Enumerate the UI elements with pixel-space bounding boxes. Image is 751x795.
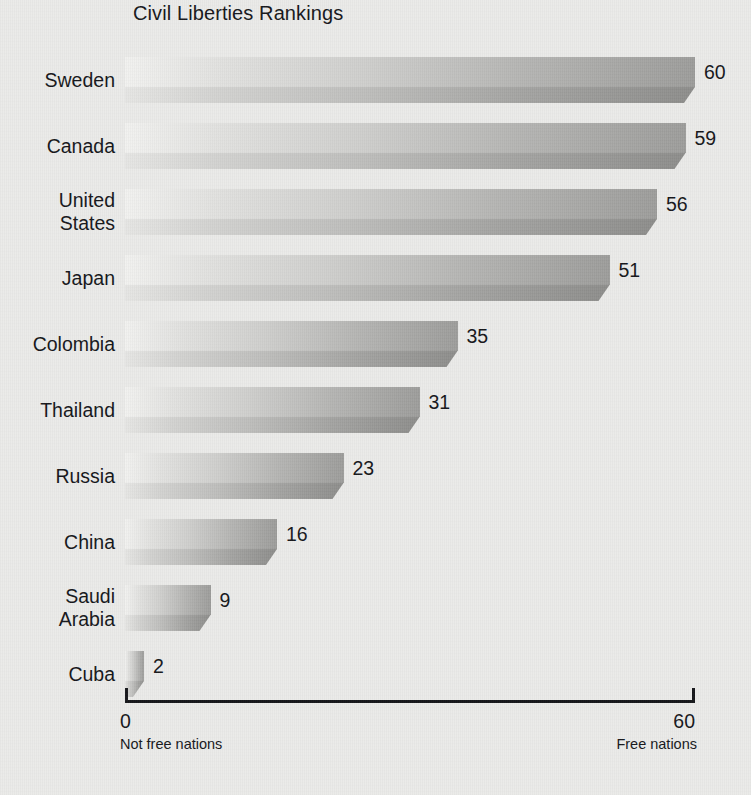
bar-value-china: 16 [286, 525, 308, 545]
civil-liberties-bar-chart: Civil Liberties Rankings Sweden60Canada5… [0, 0, 751, 795]
bar-row: Canada59 [0, 123, 751, 169]
bar-value-cuba: 2 [153, 657, 164, 677]
bar-bottom-face [125, 351, 458, 367]
category-label-colombia: Colombia [0, 333, 115, 356]
axis-line [125, 700, 695, 703]
axis-caption-not-free: Not free nations [120, 736, 222, 752]
bar-value-colombia: 35 [467, 327, 489, 347]
bar-bottom-face [125, 549, 277, 565]
bar-top-face [125, 585, 211, 615]
bar-row: Japan51 [0, 255, 751, 301]
bar-value-canada: 59 [695, 129, 717, 149]
bar-japan [125, 255, 610, 301]
axis-cap-left [125, 688, 128, 703]
bar-row: United States56 [0, 189, 751, 235]
bar-top-face [125, 453, 344, 483]
bar-value-russia: 23 [353, 459, 375, 479]
bar-canada [125, 123, 686, 169]
bar-value-saudi-arabia: 9 [220, 591, 231, 611]
bar-top-face [125, 57, 695, 87]
category-label-united-states: United States [0, 189, 115, 235]
bar-top-face [125, 123, 686, 153]
plot-area: Sweden60Canada59United States56Japan51Co… [0, 0, 751, 700]
bar-bottom-face [125, 153, 686, 169]
bar-top-face [125, 321, 458, 351]
bar-value-japan: 51 [619, 261, 641, 281]
bar-row: Russia23 [0, 453, 751, 499]
category-label-saudi-arabia: Saudi Arabia [0, 585, 115, 631]
category-label-china: China [0, 531, 115, 554]
bar-row: China16 [0, 519, 751, 565]
bar-row: Thailand31 [0, 387, 751, 433]
bar-russia [125, 453, 344, 499]
bar-bottom-face [125, 615, 211, 631]
bar-value-sweden: 60 [704, 63, 726, 83]
bar-row: Colombia35 [0, 321, 751, 367]
bar-bottom-face [125, 285, 610, 301]
bar-thailand [125, 387, 420, 433]
axis-tick-label-max: 60 [615, 710, 695, 733]
bar-value-thailand: 31 [429, 393, 451, 413]
axis-cap-right [692, 688, 695, 703]
axis-tick-label-min: 0 [120, 710, 131, 733]
bar-top-face [125, 189, 657, 219]
category-label-canada: Canada [0, 135, 115, 158]
bar-top-face [125, 255, 610, 285]
bar-bottom-face [125, 483, 344, 499]
category-label-sweden: Sweden [0, 69, 115, 92]
bar-saudi-arabia [125, 585, 211, 631]
bar-row: Cuba2 [0, 651, 751, 697]
bar-china [125, 519, 277, 565]
category-label-cuba: Cuba [0, 663, 115, 686]
category-label-thailand: Thailand [0, 399, 115, 422]
category-label-russia: Russia [0, 465, 115, 488]
bar-bottom-face [125, 417, 420, 433]
bar-top-face [125, 519, 277, 549]
bar-row: Sweden60 [0, 57, 751, 103]
bar-row: Saudi Arabia9 [0, 585, 751, 631]
bar-value-united-states: 56 [666, 195, 688, 215]
bar-bottom-face [125, 219, 657, 235]
bar-colombia [125, 321, 458, 367]
axis-caption-free: Free nations [475, 736, 697, 752]
bar-united-states [125, 189, 657, 235]
category-label-japan: Japan [0, 267, 115, 290]
bar-top-face [125, 651, 144, 681]
bar-bottom-face [125, 87, 695, 103]
bar-sweden [125, 57, 695, 103]
bar-top-face [125, 387, 420, 417]
